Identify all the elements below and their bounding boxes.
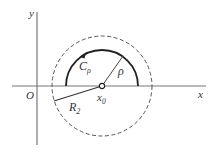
contour-diagram: y x O Cρ ρ R2 x0 <box>0 0 216 152</box>
y-axis-label: y <box>28 7 34 19</box>
contour-label: Cρ <box>79 59 91 75</box>
R2-radius-line <box>54 86 102 101</box>
R2-label: R2 <box>68 100 80 116</box>
center-label: x0 <box>96 91 106 106</box>
center-point-x0 <box>99 83 104 88</box>
origin-label: O <box>26 89 34 101</box>
x-axis-label: x <box>197 88 203 100</box>
rho-label: ρ <box>117 64 124 78</box>
contour-C-rho <box>66 50 138 86</box>
